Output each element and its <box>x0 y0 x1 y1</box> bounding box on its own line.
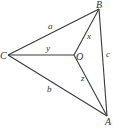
segment-a <box>8 9 99 55</box>
triangle-diagram: B C O A a b c x y z <box>0 0 117 137</box>
segment-z <box>74 55 107 116</box>
point-label-o: O <box>76 51 83 62</box>
segment-b <box>8 55 107 116</box>
point-label-a: A <box>104 116 112 127</box>
segment-label-c: c <box>106 49 110 59</box>
segment-label-b: b <box>47 84 52 94</box>
segment-label-x: x <box>86 31 91 41</box>
point-label-c: C <box>0 50 7 61</box>
segment-label-y: y <box>45 43 50 53</box>
point-label-b: B <box>96 0 102 10</box>
segment-c <box>99 9 107 116</box>
segment-label-z: z <box>80 73 85 83</box>
segment-label-a: a <box>48 21 53 31</box>
